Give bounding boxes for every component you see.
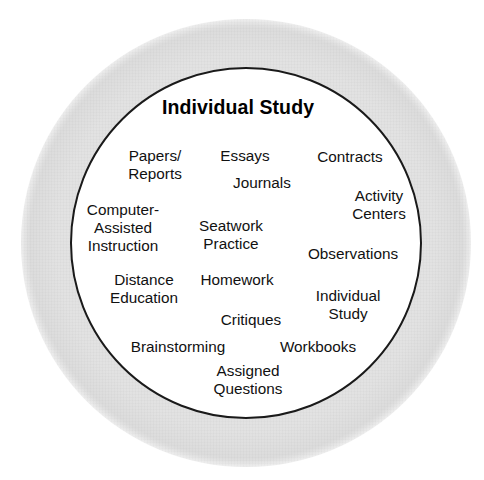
- method-label: Essays: [220, 147, 269, 165]
- method-label: Workbooks: [280, 338, 356, 356]
- method-label: Critiques: [221, 311, 281, 329]
- method-label: Journals: [233, 174, 291, 192]
- method-label: Seatwork Practice: [199, 217, 263, 253]
- method-label: Brainstorming: [131, 338, 225, 356]
- method-label: Homework: [200, 271, 273, 289]
- method-label: Distance Education: [110, 271, 178, 307]
- method-label: Individual Study: [316, 287, 381, 323]
- individual-study-diagram: Individual Study Papers/ ReportsEssaysCo…: [0, 0, 484, 480]
- method-label: Observations: [308, 245, 398, 263]
- method-label: Assigned Questions: [214, 362, 283, 398]
- diagram-title: Individual Study: [0, 96, 480, 119]
- method-label: Papers/ Reports: [128, 147, 182, 183]
- method-label: Activity Centers: [352, 187, 406, 223]
- method-label: Computer- Assisted Instruction: [87, 201, 159, 255]
- method-label: Contracts: [317, 148, 382, 166]
